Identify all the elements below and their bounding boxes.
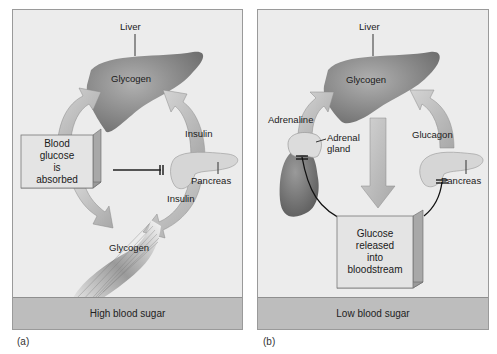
label-adrenal-gland-1: Adrenal (327, 133, 360, 143)
label-adrenaline: Adrenaline (268, 115, 313, 125)
footer-high-blood-sugar: High blood sugar (13, 297, 242, 329)
box-side (413, 210, 423, 288)
label-muscle-glycogen: Glycogen (109, 243, 149, 253)
label-pancreas: Pancreas (441, 176, 481, 186)
label-glucagon: Glucagon (412, 130, 453, 140)
label-pancreas: Pancreas (191, 176, 231, 186)
inhibition-curve-right (424, 182, 442, 216)
label-insulin-top: Insulin (185, 129, 212, 139)
label-insulin-bottom: Insulin (167, 194, 194, 204)
label-liver-glycogen: Glycogen (346, 75, 386, 85)
footer-low-blood-sugar: Low blood sugar (258, 297, 488, 329)
arrow-liver-to-bloodstream (361, 118, 395, 208)
panel-b-illustration (258, 10, 489, 330)
arrow-box-to-muscle (73, 186, 113, 228)
adrenal-gland-icon (288, 132, 321, 157)
label-liver: Liver (120, 22, 141, 32)
panel-high-blood-sugar: Liver Glycogen Insulin Pancreas Insulin … (12, 9, 243, 330)
label-adrenal-gland-2: gland (327, 144, 350, 154)
arrow-insulin-to-liver (163, 90, 205, 158)
caption-b: (b) (263, 336, 275, 347)
box-glucose-released: Glucose released into bloodstream (337, 228, 413, 276)
panel-low-blood-sugar: Liver Glycogen Adrenaline Adrenal gland … (257, 9, 489, 330)
label-liver-glycogen: Glycogen (111, 74, 151, 84)
box-side (93, 129, 101, 188)
kidney-icon (280, 148, 319, 217)
liver-icon (324, 52, 440, 123)
box-blood-glucose-absorbed: Blood glucose is absorbed (21, 138, 93, 186)
caption-a: (a) (17, 336, 29, 347)
label-liver: Liver (359, 22, 380, 32)
